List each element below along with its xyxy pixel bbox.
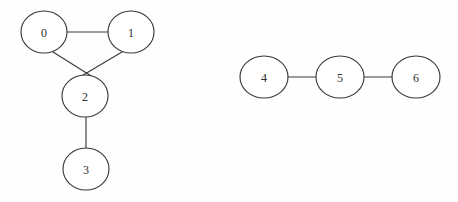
graph-node-3[interactable]: 3 bbox=[63, 148, 109, 190]
graph-diagram: 0 1 2 3 4 5 6 bbox=[0, 0, 458, 202]
node-label-3: 3 bbox=[83, 163, 89, 177]
graph-node-4[interactable]: 4 bbox=[240, 56, 288, 98]
graph-node-6[interactable]: 6 bbox=[392, 56, 440, 98]
node-label-4: 4 bbox=[261, 71, 267, 85]
node-label-1: 1 bbox=[128, 26, 134, 40]
graph-node-0[interactable]: 0 bbox=[21, 11, 67, 53]
graph-node-2[interactable]: 2 bbox=[62, 75, 108, 117]
node-label-0: 0 bbox=[41, 26, 47, 40]
graph-node-5[interactable]: 5 bbox=[316, 56, 364, 98]
node-label-6: 6 bbox=[413, 71, 419, 85]
node-label-5: 5 bbox=[337, 71, 343, 85]
graph-node-1[interactable]: 1 bbox=[108, 11, 154, 53]
node-label-2: 2 bbox=[82, 90, 88, 104]
